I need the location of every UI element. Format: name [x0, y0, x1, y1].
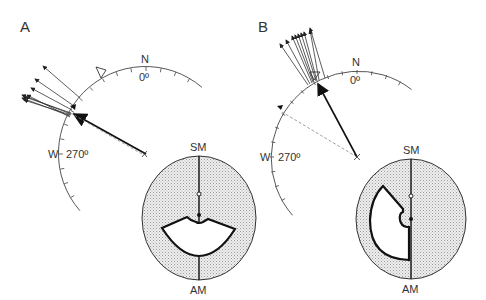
west-label: W [48, 148, 59, 160]
sm-label: SM [190, 141, 207, 153]
north-label: N [141, 53, 149, 65]
mean-vector-arrow [318, 84, 357, 157]
filled-dot [409, 217, 413, 221]
open-dot [197, 192, 201, 196]
west-degree: 270º [278, 151, 300, 163]
sm-label: SM [403, 144, 420, 156]
individual-heading-arrows [280, 28, 325, 85]
open-dot [409, 194, 413, 198]
am-label: AM [190, 284, 207, 296]
panel-b-label: B [258, 18, 268, 35]
north-label: N [352, 56, 360, 68]
arc-pointer-icon [277, 105, 283, 110]
north-degree: 0º [139, 71, 149, 83]
figure: A N 0º W 270º [0, 0, 486, 300]
panel-b: B N 0º W 270º [258, 18, 466, 295]
north-degree: 0º [350, 74, 360, 86]
individual-heading-arrows [22, 66, 80, 117]
filled-dot [197, 213, 201, 217]
west-degree: 270º [66, 148, 88, 160]
panel-a-label: A [20, 18, 30, 35]
west-label: W [260, 151, 271, 163]
am-label: AM [402, 283, 419, 295]
panel-a: A N 0º W 270º [20, 18, 256, 296]
